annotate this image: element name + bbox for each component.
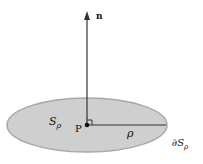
normal-label: n	[96, 11, 103, 21]
diagram-canvas: n Sρ P ρ ∂Sρ	[0, 0, 203, 164]
boundary-label: ∂Sρ	[172, 137, 189, 151]
point-p-dot	[85, 123, 90, 128]
point-label: P	[75, 123, 82, 134]
radius-label: ρ	[126, 127, 134, 140]
arrowhead-icon	[84, 11, 90, 20]
